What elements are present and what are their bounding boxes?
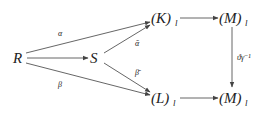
label-theta-gamma-inverse: ϑγ⁻¹ <box>237 53 251 62</box>
edge-s-to-k <box>104 25 150 53</box>
edge-r-to-l <box>26 63 150 95</box>
node-l-subscript: l <box>173 98 176 108</box>
node-m-top: (M) <box>219 10 242 27</box>
label-beta: β <box>57 80 62 89</box>
commutative-diagram: R S (K) l (M) l (L) l (M) l α β ᾱ β̄ ϑγ⁻… <box>0 0 269 113</box>
label-alpha: α <box>58 29 63 38</box>
node-k-subscript: l <box>175 18 178 28</box>
label-alpha-bar: ᾱ <box>135 39 140 48</box>
node-s: S <box>90 50 98 66</box>
node-r: R <box>12 50 22 66</box>
node-k: (K) <box>151 10 171 27</box>
node-m-bottom: (M) <box>219 90 242 107</box>
node-m-bottom-subscript: l <box>245 98 248 108</box>
edge-s-to-l <box>104 63 150 92</box>
node-m-top-subscript: l <box>245 18 248 28</box>
node-l: (L) <box>151 90 169 107</box>
edge-r-to-k <box>26 22 150 53</box>
label-beta-bar: β̄ <box>134 68 141 77</box>
